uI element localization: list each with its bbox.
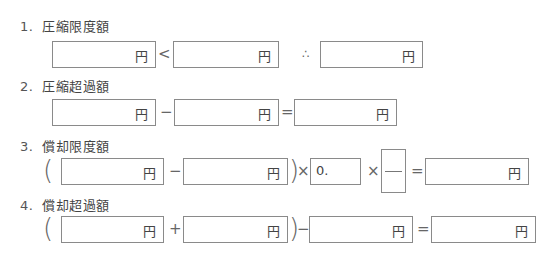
r3-fraction-field[interactable]: [381, 149, 406, 193]
yen-unit: 円: [258, 104, 271, 123]
yen-unit: 円: [143, 221, 156, 240]
yen-unit: 円: [515, 221, 528, 240]
open-paren: (: [43, 155, 53, 185]
times-operator: ×: [367, 158, 380, 185]
r1-amount-a-field[interactable]: 円: [52, 41, 156, 68]
yen-unit: 円: [267, 163, 280, 182]
r4-amount-b-field[interactable]: 円: [183, 216, 288, 243]
r3-amount-a-field[interactable]: 円: [61, 158, 164, 185]
yen-unit: 円: [392, 221, 405, 240]
r1-result-field[interactable]: 円: [320, 41, 423, 68]
r4-amount-c-field[interactable]: 円: [309, 216, 413, 243]
yen-unit: 円: [135, 46, 148, 65]
equals-operator: =: [281, 99, 294, 126]
rate-prefix: 0.: [316, 163, 328, 178]
section-4-heading: 4.償却超過額: [20, 195, 110, 214]
section-title: 圧縮超過額: [42, 79, 110, 94]
minus-operator: −: [169, 158, 182, 185]
r3-amount-b-field[interactable]: 円: [183, 158, 288, 185]
yen-unit: 円: [376, 104, 389, 123]
minus-operator: −: [160, 99, 173, 126]
yen-unit: 円: [143, 163, 156, 182]
yen-unit: 円: [258, 46, 271, 65]
section-1-heading: 1.圧縮限度額: [20, 16, 110, 35]
section-title: 償却超過額: [42, 198, 110, 213]
minus-operator: −: [297, 216, 310, 243]
r3-rate-field[interactable]: 0.: [310, 158, 361, 185]
section-number: 3.: [20, 139, 42, 154]
section-number: 1.: [20, 19, 42, 34]
therefore-symbol: ∴: [302, 41, 310, 68]
section-title: 圧縮限度額: [42, 19, 110, 34]
yen-unit: 円: [402, 46, 415, 65]
open-paren: (: [43, 213, 53, 243]
section-2-heading: 2.圧縮超過額: [20, 76, 110, 95]
section-number: 4.: [20, 198, 42, 213]
r4-result-field[interactable]: 円: [431, 216, 536, 243]
equals-operator: =: [417, 216, 430, 243]
yen-unit: 円: [508, 163, 521, 182]
r2-amount-b-field[interactable]: 円: [174, 99, 279, 126]
equals-operator: =: [411, 158, 424, 185]
r3-result-field[interactable]: 円: [425, 158, 529, 185]
yen-unit: 円: [135, 104, 148, 123]
r2-amount-a-field[interactable]: 円: [52, 99, 156, 126]
section-3-heading: 3.償却限度額: [20, 136, 110, 155]
less-than-operator: <: [158, 41, 171, 68]
r2-result-field[interactable]: 円: [294, 99, 397, 126]
yen-unit: 円: [267, 221, 280, 240]
fraction-bar: [385, 171, 402, 172]
times-operator: ×: [297, 158, 310, 185]
r1-amount-b-field[interactable]: 円: [173, 41, 279, 68]
r4-amount-a-field[interactable]: 円: [61, 216, 164, 243]
section-number: 2.: [20, 79, 42, 94]
plus-operator: +: [169, 216, 182, 243]
section-title: 償却限度額: [42, 139, 110, 154]
